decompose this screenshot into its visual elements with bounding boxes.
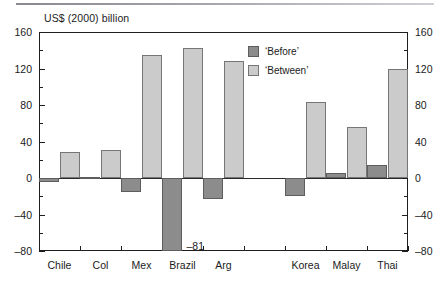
- x-tick: [39, 246, 40, 251]
- x-axis-label-mex: Mex: [132, 259, 152, 271]
- bar-between-chile: [60, 152, 80, 178]
- y-tick-right-neg20: [404, 196, 408, 197]
- y-tick-left-neg80: [39, 251, 45, 252]
- y-tick-right-neg40: [402, 215, 408, 216]
- y-axis-label-left: –80: [14, 246, 32, 257]
- x-tick: [121, 246, 122, 251]
- x-axis-label-arg: Arg: [215, 259, 231, 271]
- legend-swatch-before-icon: [248, 46, 259, 57]
- bar-before-arg: [203, 178, 223, 199]
- data-label-brazil-before: –81: [187, 240, 205, 252]
- bar-between-korea: [306, 102, 326, 178]
- y-axis-label-right: 80: [415, 100, 427, 111]
- y-tick-left-neg20: [39, 196, 43, 197]
- bar-before-chile: [39, 178, 59, 182]
- x-axis-label-malay: Malay: [332, 259, 360, 271]
- bar-between-thai: [388, 69, 408, 179]
- y-axis-label-right: 120: [415, 64, 433, 75]
- legend-swatch-between-icon: [248, 65, 259, 76]
- x-axis-label-brazil: Brazil: [169, 259, 195, 271]
- y-axis-label-right: –40: [415, 210, 433, 221]
- y-tick-left-neg60: [39, 233, 43, 234]
- top-divider: [16, 3, 434, 5]
- y-tick-right-neg60: [404, 233, 408, 234]
- x-axis-label-korea: Korea: [291, 259, 319, 271]
- bar-before-mex: [121, 178, 141, 192]
- y-tick-left-60: [39, 123, 43, 124]
- x-tick: [285, 246, 286, 251]
- chart-legend: ‘Before’ ‘Between’: [248, 44, 308, 82]
- chart-figure: US$ (2000) billion 160160120120808040400…: [0, 0, 447, 284]
- bar-between-arg: [224, 61, 244, 178]
- x-tick: [408, 246, 409, 251]
- bar-before-korea: [285, 178, 305, 196]
- x-axis-label-col: Col: [93, 259, 109, 271]
- y-axis-label-left: 80: [20, 100, 32, 111]
- y-axis-label-left: 120: [14, 64, 32, 75]
- y-axis-label-left: –40: [14, 210, 32, 221]
- bar-before-brazil: [162, 178, 182, 251]
- x-tick: [367, 246, 368, 251]
- y-tick-right-0: [402, 178, 408, 179]
- y-axis-label-left: 160: [14, 27, 32, 38]
- bar-between-col: [101, 150, 121, 178]
- legend-label-between: ‘Between’: [265, 65, 308, 76]
- x-tick: [80, 246, 81, 251]
- y-tick-left-140: [39, 50, 43, 51]
- y-tick-left-120: [39, 69, 45, 70]
- y-axis-label-right: –80: [415, 246, 433, 257]
- y-tick-left-20: [39, 160, 43, 161]
- bar-between-brazil: [183, 48, 203, 178]
- y-tick-left-100: [39, 87, 43, 88]
- x-axis-label-chile: Chile: [48, 259, 72, 271]
- bar-before-thai: [367, 165, 387, 178]
- plot-area: 1601601201208080404000–40–40–80–80ChileC…: [39, 32, 408, 251]
- bar-before-malay: [326, 173, 346, 178]
- y-tick-left-40: [39, 142, 45, 143]
- y-tick-left-80: [39, 105, 45, 106]
- y-axis-label-right: 0: [415, 173, 421, 184]
- y-tick-left-160: [39, 32, 45, 33]
- x-axis-label-thai: Thai: [377, 259, 397, 271]
- bar-between-malay: [347, 127, 367, 178]
- legend-item-between: ‘Between’: [248, 63, 308, 78]
- legend-label-before: ‘Before’: [265, 46, 299, 57]
- y-tick-left-neg40: [39, 215, 45, 216]
- y-tick-right-140: [404, 50, 408, 51]
- bar-before-col: [80, 177, 100, 179]
- axis-top: [39, 32, 408, 33]
- chart-title: US$ (2000) billion: [44, 12, 129, 24]
- x-tick: [244, 246, 245, 251]
- y-axis-label-left: 40: [20, 137, 32, 148]
- axis-bottom: [39, 250, 408, 251]
- x-tick: [326, 246, 327, 251]
- y-tick-right-neg80: [402, 251, 408, 252]
- y-axis-label-right: 160: [415, 27, 433, 38]
- y-tick-right-160: [402, 32, 408, 33]
- legend-item-before: ‘Before’: [248, 44, 308, 59]
- y-axis-label-right: 40: [415, 137, 427, 148]
- bar-between-mex: [142, 55, 162, 178]
- y-axis-label-left: 0: [26, 173, 32, 184]
